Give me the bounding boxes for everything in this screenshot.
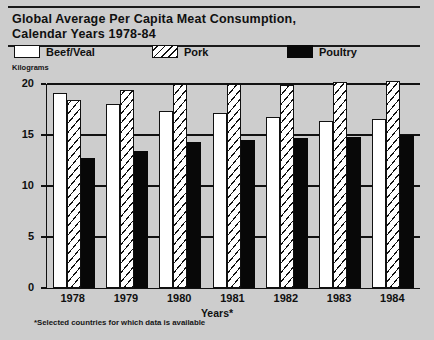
bar-poultry-1979 [134, 151, 148, 288]
bar-pork-1980 [173, 84, 187, 288]
legend-label-beef-veal: Beef/Veal [46, 46, 95, 58]
page-title: Global Average Per Capita Meat Consumpti… [8, 8, 420, 45]
y-axis-tick-label: 20 [4, 77, 34, 89]
y-axis-tick-mark [41, 287, 46, 289]
chart-legend: Beef/Veal Pork Poultry [10, 45, 420, 61]
bar-pork-1984 [386, 81, 400, 288]
legend-item-poultry: Poultry [287, 45, 357, 58]
bar-group-1981 [213, 84, 255, 288]
x-axis-tick-label-1979: 1979 [96, 292, 156, 304]
bar-beef-veal-1979 [106, 104, 120, 288]
bar-beef-veal-1981 [213, 113, 227, 288]
footnote: *Selected countries for which data is av… [34, 318, 205, 327]
bar-poultry-1980 [187, 142, 201, 288]
bar-pork-1979 [120, 90, 134, 288]
bar-group-1984 [372, 84, 414, 288]
bar-poultry-1978 [81, 158, 95, 288]
x-axis-tick-label-1978: 1978 [43, 292, 103, 304]
chart-page: Global Average Per Capita Meat Consumpti… [0, 0, 434, 340]
bar-beef-veal-1982 [266, 117, 280, 288]
y-axis-tick-label: 15 [4, 128, 34, 140]
white-box-swatch [14, 45, 40, 58]
bar-beef-veal-1983 [319, 121, 333, 288]
bar-pork-1978 [67, 100, 81, 288]
y-axis-tick-label: 0 [4, 281, 34, 293]
x-axis-tick-label-1980: 1980 [149, 292, 209, 304]
x-axis-tick-label-1982: 1982 [256, 292, 316, 304]
y-axis-tick-label: 5 [4, 230, 34, 242]
y-axis-tick-mark [41, 185, 46, 187]
bar-poultry-1981 [241, 140, 255, 288]
bar-poultry-1982 [294, 138, 308, 288]
bar-group-1982 [266, 84, 308, 288]
bar-beef-veal-1980 [159, 111, 173, 288]
bar-pork-1983 [333, 82, 347, 288]
header: Global Average Per Capita Meat Consumpti… [8, 6, 420, 47]
x-axis-tick-label-1983: 1983 [309, 292, 369, 304]
bar-poultry-1984 [400, 135, 414, 288]
bar-poultry-1983 [347, 137, 361, 288]
legend-item-pork: Pork [152, 45, 208, 58]
y-axis-unit-label: Kilograms [12, 63, 49, 72]
bar-beef-veal-1978 [53, 93, 67, 288]
bar-group-1979 [106, 84, 148, 288]
x-axis-tick-label-1984: 1984 [362, 292, 422, 304]
y-axis-tick-label: 10 [4, 179, 34, 191]
bar-group-1983 [319, 84, 361, 288]
bar-pork-1982 [280, 85, 294, 288]
solid-black-swatch [287, 45, 313, 58]
y-axis-tick-mark [41, 236, 46, 238]
legend-label-poultry: Poultry [319, 46, 357, 58]
y-axis-tick-mark [41, 83, 46, 85]
bar-group-1978 [53, 84, 95, 288]
legend-label-pork: Pork [184, 46, 208, 58]
bar-beef-veal-1984 [372, 119, 386, 288]
plot-area [46, 84, 420, 289]
bar-pork-1981 [227, 84, 241, 288]
legend-item-beef-veal: Beef/Veal [14, 45, 95, 58]
diagonal-hatch-swatch [152, 45, 178, 58]
y-axis-tick-mark [41, 134, 46, 136]
x-axis-tick-label-1981: 1981 [203, 292, 263, 304]
bar-group-1980 [159, 84, 201, 288]
